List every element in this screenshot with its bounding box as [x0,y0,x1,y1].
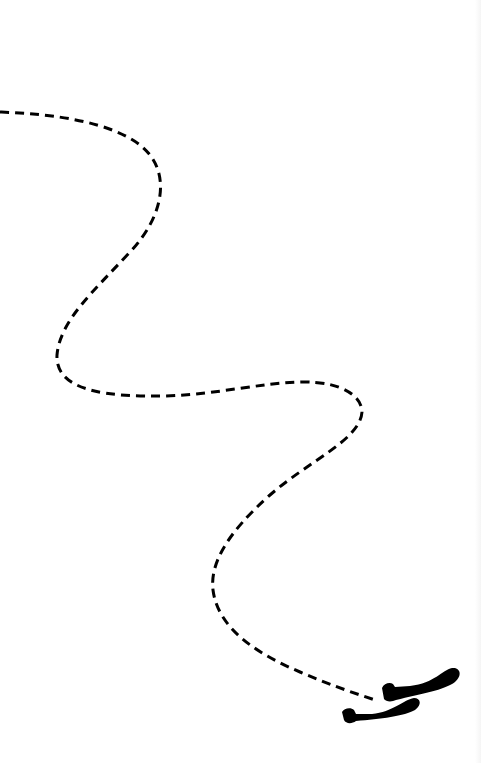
shoe-left-icon [342,698,420,723]
shoe-right-icon [382,668,460,701]
illustration-svg [0,0,481,763]
footsteps-illustration [0,0,481,763]
dashed-path [0,112,375,700]
page-edge-shadow [475,0,481,763]
